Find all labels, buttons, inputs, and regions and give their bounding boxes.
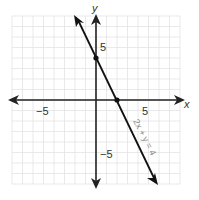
x-tick-neg5: −5 xyxy=(36,105,49,117)
line-arrow-top-icon xyxy=(74,15,84,27)
y-tick-5: 5 xyxy=(100,41,106,53)
y-axis-label: y xyxy=(91,2,99,14)
coordinate-plane: x y −5 5 5 −5 2x + y = 4 xyxy=(0,0,199,200)
point-x-intercept xyxy=(114,97,119,102)
y-tick-neg5: −5 xyxy=(100,148,113,160)
x-axis-label: x xyxy=(183,98,190,110)
x-tick-5: 5 xyxy=(142,105,148,117)
point-y-intercept xyxy=(93,55,98,60)
